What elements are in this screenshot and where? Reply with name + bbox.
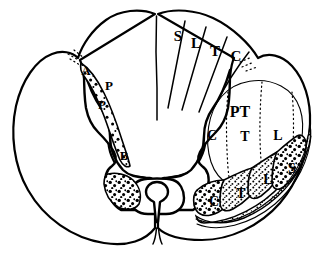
label-marker-p-lower: P xyxy=(98,97,106,112)
label-posterior-column-s: S xyxy=(174,28,182,44)
posterior-median-sulcus xyxy=(156,16,157,120)
label-spinothalamic-c: C xyxy=(209,194,219,209)
label-posterior-column-c: C xyxy=(231,48,242,64)
label-corticospinal-t: T xyxy=(240,129,250,144)
spinal-cord-diagram: S L T C PT C T L C T L S A P P B xyxy=(0,0,321,259)
label-posterior-column-l: L xyxy=(191,35,201,51)
label-marker-a: A xyxy=(81,63,91,78)
label-spinothalamic-s: S xyxy=(288,161,296,176)
label-marker-p-upper: P xyxy=(105,78,113,93)
label-marker-b: B xyxy=(120,148,129,163)
label-posterior-column-t: T xyxy=(210,43,220,59)
label-pyramidal-tract: PT xyxy=(230,103,251,120)
label-spinothalamic-t: T xyxy=(236,186,246,201)
spinal-cord-figure: S L T C PT C T L C T L S A P P B xyxy=(0,0,321,259)
label-corticospinal-l: L xyxy=(273,128,282,143)
label-corticospinal-c: C xyxy=(207,128,217,143)
label-spinothalamic-l: L xyxy=(263,172,272,187)
